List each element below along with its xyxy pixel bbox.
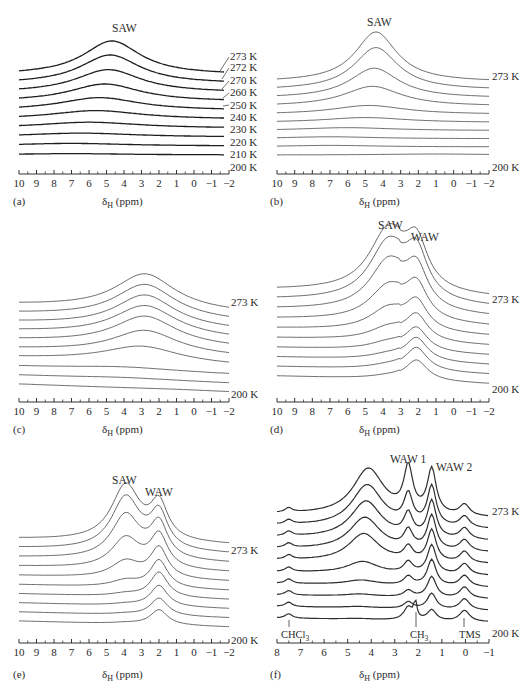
spectrum-trace [19,572,229,599]
x-axis-label-e: δH (ppm) [102,668,143,683]
spectrum-trace [19,133,224,136]
panel-a: SAW 273 K 272 K 270 K 260 K 250 K 240 K … [13,22,257,210]
peak-label-saw: SAW [367,16,392,28]
panel-label-f: (f) [270,668,281,681]
spectrum-trace [277,360,489,383]
panel-label-c: (c) [13,423,26,436]
x-tick-label: 5 [104,405,110,417]
temp-label: 200 K [230,161,257,173]
temp-label-top: 273 K [231,544,258,556]
nmr-figure: SAW 273 K 272 K 270 K 260 K 250 K 240 K … [0,0,532,691]
x-axis-d: 109876543210−1−2 [272,398,495,417]
x-tick-label: 5 [345,646,351,658]
x-tick-label: 1 [433,177,439,189]
x-tick-label: 7 [69,177,75,189]
panel-b: SAW 273 K 200 K 109876543210−1−2 (b) δH … [270,16,519,210]
spectrum-trace [277,128,489,131]
spectrum-trace [277,559,488,586]
spectrum-trace [19,330,229,352]
panel-f: WAW 1 WAW 2 273 K 200 K CHCl3 CH3 TMS 87… [270,453,519,683]
spectrum-trace [277,600,488,621]
x-tick-label: 7 [327,405,333,417]
x-tick-label: 4 [121,646,127,658]
temp-label: 230 K [230,123,257,135]
x-tick-label: 5 [363,405,369,417]
x-tick-label: 4 [121,405,127,417]
x-tick-label: −1 [206,646,218,658]
x-tick-label: 2 [416,405,422,417]
spectrum-trace [277,224,489,294]
traces-f [277,462,488,621]
traces-e [19,483,229,627]
x-axis-label-f: δH (ppm) [359,668,400,683]
temp-label: 220 K [230,136,257,148]
reference-label-ch3: CH3 [410,629,429,643]
x-tick-label: 10 [272,177,284,189]
x-axis-label-b: δH (ppm) [359,195,400,210]
temp-label-bottom: 200 K [231,634,258,646]
spectrum-trace [19,546,229,581]
x-tick-label: −2 [223,405,235,417]
spectrum-trace [19,84,224,100]
temp-label-top: 273 K [492,505,519,517]
x-tick-label: 9 [34,177,40,189]
x-axis-label-a: δH (ppm) [102,195,143,210]
spectrum-trace [19,495,229,552]
spectrum-trace [277,48,489,88]
spectrum-trace [277,297,489,334]
traces-b [277,32,489,155]
x-tick-label: 2 [156,177,162,189]
x-tick-label: −2 [223,646,235,658]
temp-label: 260 K [230,86,257,98]
x-tick-label: 7 [69,405,75,417]
reference-label-tms: TMS [459,629,481,640]
spectrum-trace [277,484,488,527]
spectrum-trace [19,365,229,373]
x-tick-label: 7 [327,177,333,189]
x-tick-label: 2 [416,177,422,189]
x-tick-label: 1 [433,405,439,417]
temp-label-bottom: 200 K [492,627,519,639]
peak-label-waw: WAW [411,231,439,243]
x-tick-label: 8 [51,177,57,189]
temp-label: 240 K [230,111,257,123]
spectrum-trace [277,499,488,539]
spectrum-trace [19,559,229,589]
x-tick-label: 2 [416,646,422,658]
spectrum-trace [277,105,489,113]
peak-label-saw: SAW [112,474,137,486]
temp-label: 250 K [230,99,257,111]
x-tick-label: −1 [206,177,218,189]
spectrum-trace [277,86,489,104]
x-tick-label: 1 [439,646,445,658]
x-tick-label: 9 [34,405,40,417]
x-tick-label: 5 [104,646,110,658]
spectrum-trace [19,143,224,145]
panel-label-d: (d) [270,423,283,436]
temp-label: 210 K [230,148,257,160]
spectrum-trace [277,145,489,146]
x-tick-label: −2 [483,177,495,189]
x-tick-label: −1 [465,177,477,189]
x-tick-label: 6 [345,405,351,417]
spectrum-trace [277,277,489,324]
x-tick-label: −2 [223,177,235,189]
spectrum-trace [277,514,488,551]
x-tick-label: 6 [86,405,92,417]
x-tick-label: 10 [14,177,26,189]
peak-label-saw: SAW [378,219,403,231]
spectrum-trace [277,576,488,598]
x-tick-label: 3 [392,646,398,658]
x-tick-label: 0 [463,646,469,658]
traces-a [19,41,224,155]
x-tick-label: 8 [274,646,280,658]
panel-d: SAW WAW 273 K 200 K 109876543210−1−2 (d)… [270,219,519,438]
x-tick-label: 0 [191,405,197,417]
x-tick-label: 2 [156,405,162,417]
x-tick-label: 7 [69,646,75,658]
spectrum-trace [19,598,229,618]
x-tick-label: 3 [398,177,404,189]
x-tick-label: 0 [451,177,457,189]
spectrum-trace [277,154,489,155]
x-tick-label: −1 [206,405,218,417]
